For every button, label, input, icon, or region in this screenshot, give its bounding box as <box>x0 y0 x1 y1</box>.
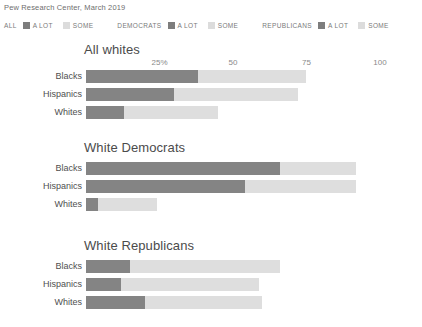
table-row: Whites <box>0 296 422 309</box>
table-row: Hispanics <box>0 88 422 101</box>
category-label: Blacks <box>0 71 82 81</box>
bar-track <box>86 180 380 193</box>
plot-area: Blacks Hispanics Whites <box>0 162 422 216</box>
legend-key-democrats-a-lot: A LOT <box>168 22 198 29</box>
table-row: Whites <box>0 198 422 211</box>
bar-track <box>86 278 380 291</box>
category-label: Blacks <box>0 261 82 271</box>
bar-track <box>86 296 380 309</box>
plot-area: Blacks Hispanics Whites <box>0 70 422 124</box>
legend-label-republicans-a-lot: A LOT <box>328 22 348 29</box>
x-axis-tick-labels: 25% 50 75 100 <box>0 58 422 70</box>
bar-track <box>86 260 380 273</box>
legend-swatch-icon <box>318 22 325 29</box>
legend-label-republicans-some: SOME <box>368 22 389 29</box>
chart-legend: ALL A LOT SOME DEMOCRATS A LOT SOME REPU… <box>4 19 418 31</box>
x-tick-50: 50 <box>229 58 238 67</box>
x-tick-100: 100 <box>373 58 386 67</box>
panel-title: White Republicans <box>84 238 194 253</box>
panel-title: All whites <box>84 42 140 57</box>
bar-track <box>86 88 380 101</box>
table-row: Hispanics <box>0 180 422 193</box>
plot-area: Blacks Hispanics Whites <box>0 260 422 314</box>
legend-group-all: ALL A LOT SOME <box>4 22 103 29</box>
bar-segment-a-lot <box>86 162 280 175</box>
category-label: Whites <box>0 107 82 117</box>
bar-segment-a-lot <box>86 88 174 101</box>
table-row: Hispanics <box>0 278 422 291</box>
table-row: Blacks <box>0 260 422 273</box>
bar-track <box>86 198 380 211</box>
legend-key-all-a-lot: A LOT <box>23 22 53 29</box>
bar-segment-a-lot <box>86 278 121 291</box>
category-label: Whites <box>0 199 82 209</box>
bar-segment-some <box>121 278 259 291</box>
legend-key-republicans-some: SOME <box>358 22 389 29</box>
x-tick-75: 75 <box>302 58 311 67</box>
bar-segment-some <box>245 180 357 193</box>
bar-segment-a-lot <box>86 260 130 273</box>
bar-track <box>86 106 380 119</box>
bar-segment-a-lot <box>86 198 98 211</box>
legend-swatch-icon <box>23 22 30 29</box>
legend-group-democrats: DEMOCRATS A LOT SOME <box>117 22 248 29</box>
legend-swatch-icon <box>168 22 175 29</box>
bar-segment-a-lot <box>86 106 124 119</box>
bar-segment-some <box>145 296 263 309</box>
bar-segment-a-lot <box>86 180 245 193</box>
legend-key-republicans-a-lot: A LOT <box>318 22 348 29</box>
legend-swatch-icon <box>208 22 215 29</box>
bar-track <box>86 162 380 175</box>
legend-swatch-icon <box>63 22 70 29</box>
table-row: Blacks <box>0 70 422 83</box>
bar-segment-some <box>130 260 280 273</box>
category-label: Whites <box>0 297 82 307</box>
legend-group-title-republicans: REPUBLICANS <box>262 22 312 29</box>
bar-track <box>86 70 380 83</box>
legend-swatch-icon <box>358 22 365 29</box>
legend-label-all-some: SOME <box>73 22 94 29</box>
bar-segment-some <box>174 88 297 101</box>
legend-label-democrats-some: SOME <box>218 22 239 29</box>
bar-segment-some <box>124 106 218 119</box>
bar-segment-some <box>198 70 307 83</box>
legend-group-title-democrats: DEMOCRATS <box>117 22 161 29</box>
category-label: Hispanics <box>0 279 82 289</box>
panel-title: White Democrats <box>84 140 185 155</box>
category-label: Hispanics <box>0 89 82 99</box>
category-label: Blacks <box>0 163 82 173</box>
source-attribution: Pew Research Center, March 2019 <box>4 3 125 12</box>
legend-group-republicans: REPUBLICANS A LOT SOME <box>262 22 398 29</box>
category-label: Hispanics <box>0 181 82 191</box>
bar-segment-a-lot <box>86 70 198 83</box>
legend-label-all-a-lot: A LOT <box>33 22 53 29</box>
legend-key-all-some: SOME <box>63 22 94 29</box>
table-row: Whites <box>0 106 422 119</box>
bar-segment-some <box>280 162 356 175</box>
x-tick-25: 25% <box>151 58 167 67</box>
legend-group-title-all: ALL <box>4 22 17 29</box>
bar-segment-a-lot <box>86 296 145 309</box>
table-row: Blacks <box>0 162 422 175</box>
bar-segment-some <box>98 198 157 211</box>
legend-key-democrats-some: SOME <box>208 22 239 29</box>
legend-label-democrats-a-lot: A LOT <box>178 22 198 29</box>
